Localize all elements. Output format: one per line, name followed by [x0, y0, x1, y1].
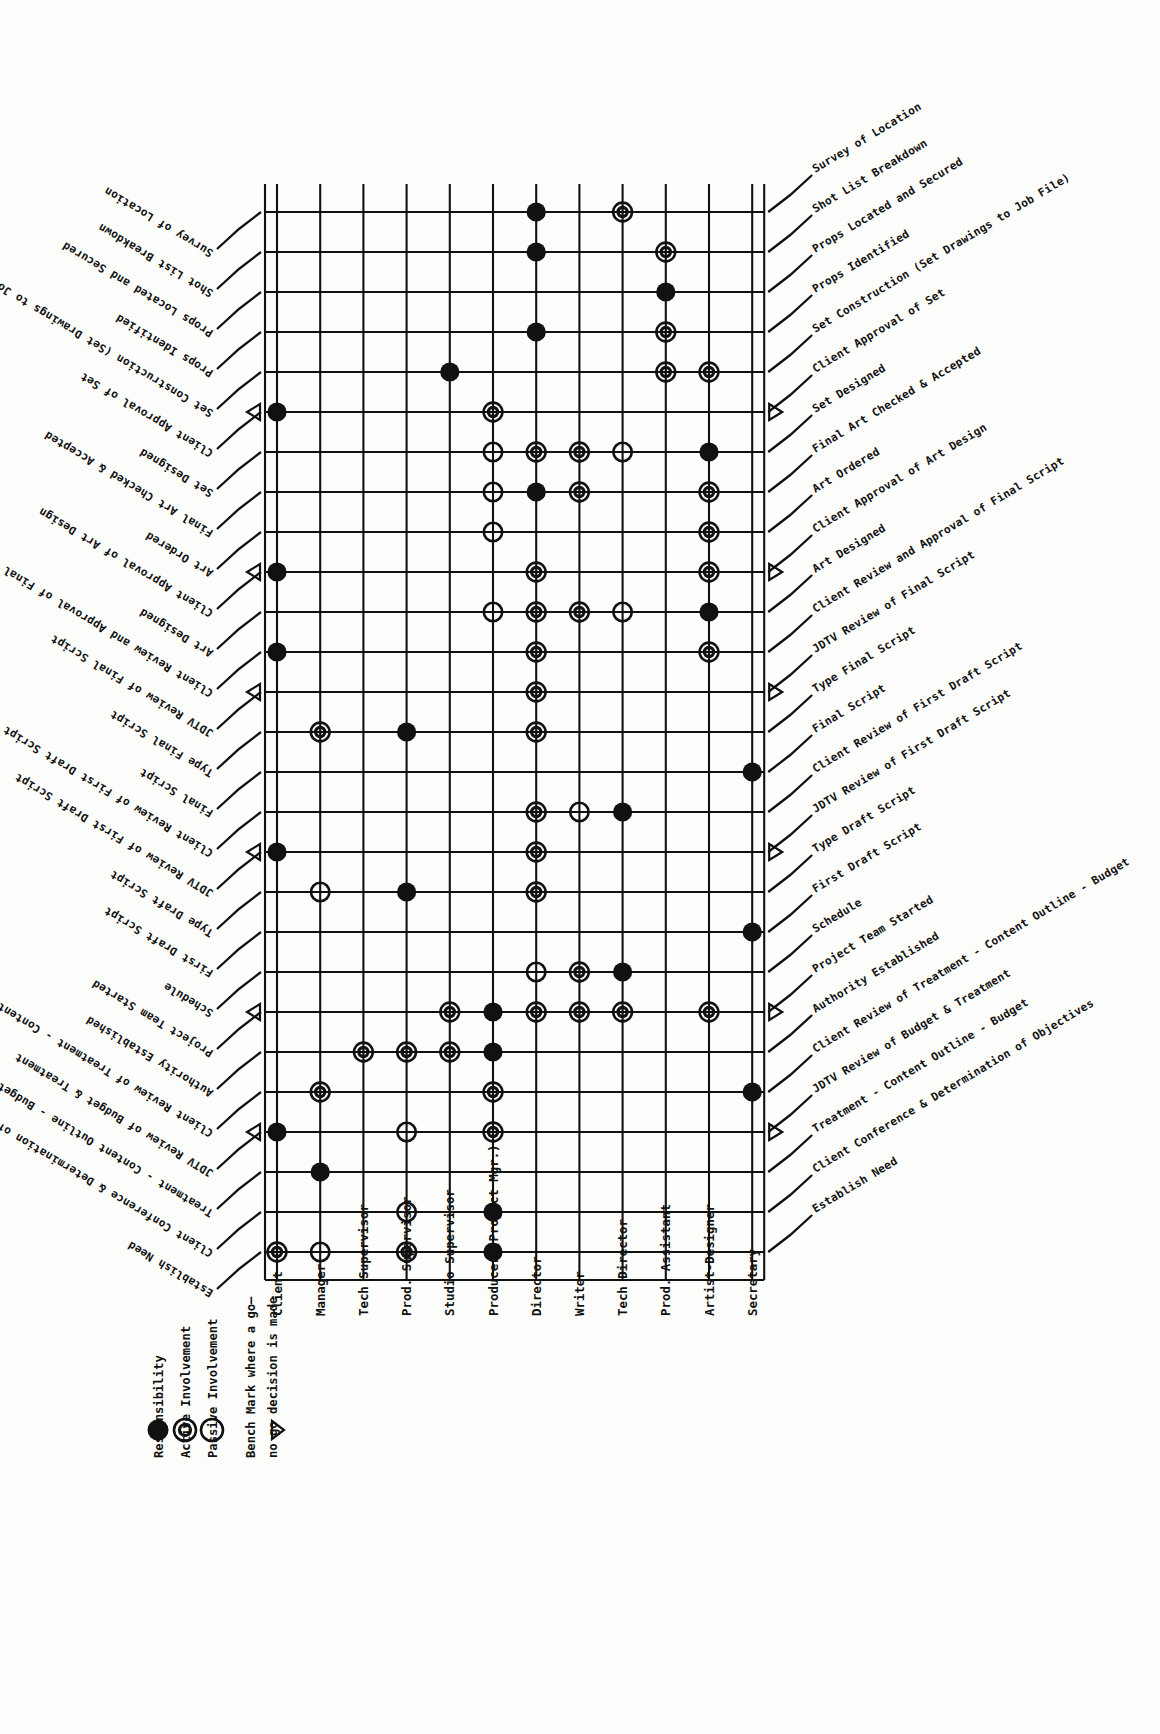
task-leader-line	[768, 1055, 812, 1092]
role-label[interactable]: Studio Supervisor	[442, 1189, 457, 1316]
task-leader-line-mirror	[217, 292, 261, 329]
task-leader-line	[768, 455, 812, 492]
task-leader-line-mirror	[217, 212, 261, 249]
task-leader-line	[768, 495, 812, 532]
matrix-cell-marker[interactable]	[440, 362, 459, 381]
task-label-right: Survey of Location	[810, 100, 924, 175]
task-leader-line	[768, 895, 812, 932]
task-leader-line	[768, 935, 812, 972]
legend-label: Responsibility	[152, 1355, 166, 1458]
task-leader-line	[768, 695, 812, 732]
task-label-right: Shot List Breakdown	[810, 137, 930, 216]
matrix-cell-marker[interactable]	[743, 762, 762, 781]
task-leader-line	[768, 415, 812, 452]
role-label[interactable]: Artist-Designer	[702, 1204, 717, 1316]
task-leader-line-mirror	[217, 452, 261, 489]
task-leader-line	[768, 255, 812, 292]
task-label-right: First Draft Script	[810, 820, 924, 895]
task-leader-line-mirror	[217, 932, 261, 969]
task-leader-line	[768, 1135, 812, 1172]
matrix-cell-marker[interactable]	[267, 402, 286, 421]
task-leader-line-mirror	[217, 1252, 261, 1289]
matrix-cell-marker[interactable]	[267, 842, 286, 861]
matrix-cell-marker[interactable]	[527, 482, 546, 501]
task-leader-line-mirror	[217, 532, 261, 569]
matrix-cell-marker[interactable]	[613, 962, 632, 981]
task-leader-line-mirror	[217, 492, 261, 529]
role-label[interactable]: Tech Supervisor	[356, 1204, 371, 1316]
task-leader-line-mirror	[217, 612, 261, 649]
matrix-cell-marker[interactable]	[483, 1042, 502, 1061]
role-label[interactable]: Secretary	[745, 1248, 760, 1316]
task-label-right: Project Team Started	[810, 893, 936, 976]
task-label-right: Client Review and Approval of Final Scri…	[810, 454, 1066, 615]
task-leader-line-mirror	[217, 812, 261, 849]
legend-label: Bench Mark where a go—	[244, 1296, 258, 1458]
role-label[interactable]: Writer	[572, 1271, 587, 1316]
legend-label: no go decision is made	[266, 1297, 280, 1458]
task-leader-line	[768, 615, 812, 652]
role-label[interactable]: Director	[529, 1256, 544, 1316]
task-label-left-mirrored: Authority Established	[84, 1013, 216, 1099]
task-leader-line-mirror	[217, 732, 261, 769]
task-label-left-mirrored: First Draft Script	[102, 904, 216, 979]
matrix-cell-marker[interactable]	[527, 242, 546, 261]
task-leader-line	[768, 215, 812, 252]
task-label-left-mirrored: Schedule	[161, 980, 215, 1020]
task-label-right: Client Review of Treatment - Content Out…	[810, 855, 1132, 1055]
matrix-cell-marker[interactable]	[743, 1082, 762, 1101]
task-leader-line	[768, 175, 812, 212]
role-label[interactable]: Prod. Supervisor	[399, 1197, 414, 1316]
matrix-cell-marker[interactable]	[267, 562, 286, 581]
task-leader-line	[768, 775, 812, 812]
matrix-cell-marker[interactable]	[267, 1122, 286, 1141]
task-leader-line	[768, 295, 812, 332]
task-leader-line-mirror	[217, 652, 261, 689]
task-leader-line-mirror	[217, 892, 261, 929]
matrix-cell-marker[interactable]	[267, 642, 286, 661]
matrix-cell-marker[interactable]	[397, 722, 416, 741]
task-label-right: Authority Established	[810, 929, 942, 1015]
matrix-cell-marker[interactable]	[743, 922, 762, 941]
matrix-cell-marker[interactable]	[699, 602, 718, 621]
task-leader-line-mirror	[217, 1172, 261, 1209]
role-label[interactable]: Manager	[313, 1264, 328, 1316]
matrix-cell-marker[interactable]	[527, 322, 546, 341]
role-label[interactable]: Producer (Project Mgr.)	[486, 1144, 501, 1316]
matrix-cell-marker[interactable]	[613, 802, 632, 821]
task-leader-line	[768, 575, 812, 612]
legend-label: Active Involvement	[179, 1326, 193, 1458]
task-leader-line-mirror	[217, 252, 261, 289]
matrix-cell-marker[interactable]	[699, 442, 718, 461]
task-leader-line-mirror	[217, 1092, 261, 1129]
task-label-left-mirrored: Survey of Location	[102, 184, 216, 259]
task-label-left-mirrored: Type Final Script	[108, 708, 216, 780]
matrix-cell-marker[interactable]	[311, 1162, 330, 1181]
task-leader-line	[768, 1015, 812, 1052]
task-leader-line-mirror	[217, 372, 261, 409]
responsibility-matrix-chart: Survey of LocationShot List BreakdownPro…	[0, 0, 1160, 1734]
task-label-left-mirrored: Shot List Breakdown	[96, 221, 216, 300]
task-leader-line	[768, 735, 812, 772]
role-label[interactable]: Tech Director	[615, 1219, 630, 1316]
legend-label: Passive Involvement	[206, 1319, 220, 1458]
task-leader-line	[768, 855, 812, 892]
task-leader-line-mirror	[217, 972, 261, 1009]
task-leader-line-mirror	[217, 772, 261, 809]
task-label-right: Schedule	[810, 896, 864, 936]
task-label-left-mirrored: Project Team Started	[90, 977, 216, 1060]
task-leader-line	[768, 1215, 812, 1252]
matrix-cell-marker[interactable]	[527, 202, 546, 221]
task-leader-line	[768, 335, 812, 372]
task-leader-line-mirror	[217, 1212, 261, 1249]
task-leader-line-mirror	[217, 1052, 261, 1089]
task-leader-line	[768, 1175, 812, 1212]
matrix-cell-marker[interactable]	[397, 882, 416, 901]
role-label[interactable]: Prod. Assistant	[658, 1204, 673, 1316]
matrix-cell-marker[interactable]	[656, 282, 675, 301]
task-leader-line-mirror	[217, 332, 261, 369]
matrix-cell-marker[interactable]	[483, 1002, 502, 1021]
